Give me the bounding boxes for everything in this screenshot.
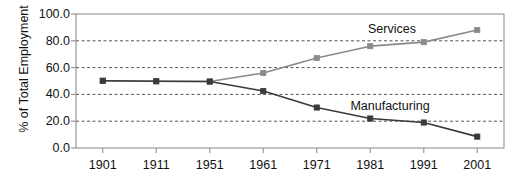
data-point-services <box>421 40 426 45</box>
plot-area <box>0 0 515 179</box>
data-point-manufacturing <box>100 78 105 83</box>
data-point-manufacturing <box>207 79 212 84</box>
data-point-manufacturing <box>154 79 159 84</box>
data-point-manufacturing <box>368 116 373 121</box>
data-point-manufacturing <box>475 134 480 139</box>
data-point-services <box>368 44 373 49</box>
axis-ticks <box>71 14 477 153</box>
data-point-manufacturing <box>421 120 426 125</box>
data-point-services <box>261 70 266 75</box>
data-point-services <box>475 27 480 32</box>
data-point-manufacturing <box>314 105 319 110</box>
series-line-services <box>103 30 478 81</box>
data-point-manufacturing <box>261 88 266 93</box>
series-label-manufacturing: Manufacturing <box>350 99 429 113</box>
series-label-services: Services <box>368 22 416 36</box>
data-point-services <box>314 55 319 60</box>
data-series <box>100 27 480 139</box>
employment-line-chart: % of Total Employment 100.080.060.040.02… <box>0 0 515 179</box>
